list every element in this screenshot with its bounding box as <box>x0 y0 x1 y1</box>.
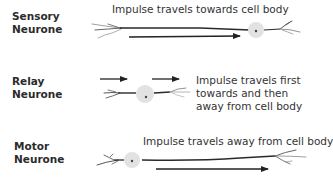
motor-terminal-branches-icon <box>275 150 306 164</box>
sensory-nucleus <box>255 30 257 32</box>
sensory-axon <box>120 28 250 30</box>
relay-right-dendrites-icon <box>170 88 190 97</box>
sensory-terminal-dendrites-icon <box>280 21 300 34</box>
motor-neurone-drawing <box>97 150 306 169</box>
relay-cell-body-icon <box>136 85 154 103</box>
relay-neurone-drawing <box>100 79 190 103</box>
relay-left-dendrites-icon <box>104 90 120 98</box>
sensory-dendrites-icon <box>92 24 122 38</box>
motor-nucleus <box>131 160 133 162</box>
sensory-direction-arrow-icon <box>129 36 240 37</box>
sensory-neurone-drawing <box>92 21 300 38</box>
relay-nucleus <box>145 96 147 98</box>
motor-axon <box>142 156 275 160</box>
